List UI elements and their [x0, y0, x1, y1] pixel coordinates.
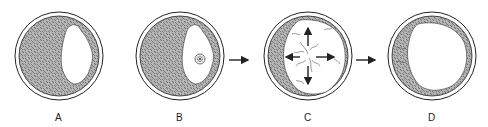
stage-diagram: A B [0, 0, 488, 127]
panel-a: A [15, 12, 103, 123]
panel-d: D [388, 12, 476, 123]
panel-b: B [136, 12, 224, 123]
panel-c: C [264, 12, 352, 123]
panel-label-d: D [428, 112, 435, 123]
rosette-icon [195, 54, 205, 64]
panel-label-c: C [304, 112, 311, 123]
panel-label-b: B [176, 112, 183, 123]
panel-label-a: A [55, 112, 62, 123]
